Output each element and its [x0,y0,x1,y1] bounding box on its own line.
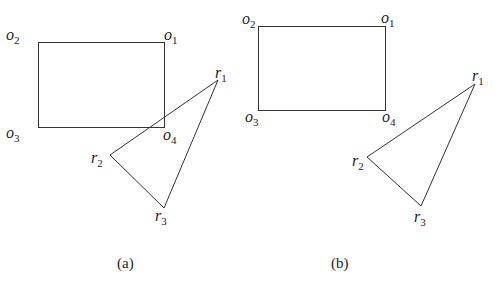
label-r1-b: r1 [472,67,484,87]
label-r2-b: r2 [352,152,364,172]
label-o2-a: o2 [6,26,20,46]
panel-b: o2 o1 o3 o4 r1 r2 r3 (b) [242,9,484,272]
label-o1-a: o1 [164,26,178,46]
label-r2-a: r2 [91,149,103,169]
rectangle-o-a [39,43,165,128]
caption-a: (a) [117,255,134,272]
label-o4-a: o4 [163,126,177,146]
label-o3-a: o3 [6,124,20,144]
panel-a: o2 o1 o3 o4 r1 r2 r3 (a) [6,26,227,272]
diagram-canvas: o2 o1 o3 o4 r1 r2 r3 (a) o2 o1 o3 o4 r1 … [0,0,499,283]
label-r3-a: r3 [155,207,167,227]
label-o2-b: o2 [242,10,256,30]
caption-b: (b) [331,255,349,272]
label-o4-b: o4 [382,108,396,128]
rectangle-o-b [259,27,386,111]
triangle-r-b [367,84,475,206]
label-r3-b: r3 [414,208,426,228]
label-o3-b: o3 [245,108,259,128]
